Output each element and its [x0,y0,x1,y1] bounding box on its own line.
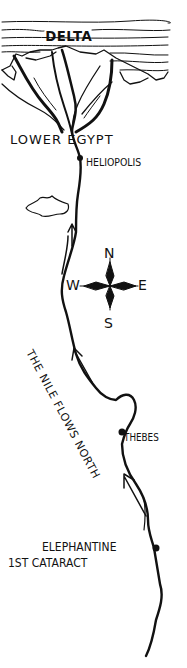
compass-west-label: W [66,278,80,292]
heliopolis-dot [77,155,83,161]
elephantine-dot [153,545,160,552]
compass-north-label: N [104,246,114,260]
lower-egypt-label: LOWER EGYPT [10,133,114,146]
heliopolis-label: HELIOPOLIS [86,157,141,168]
nile-map: DELTA LOWER EGYPT HELIOPOLIS THE NILE FL… [0,0,187,668]
elephantine-label: ELEPHANTINE [42,541,116,553]
nile-river [62,130,162,656]
flow-arrows [68,224,146,516]
compass-rose [80,258,138,310]
first-cataract-label: 1ST CATARACT [8,557,87,569]
city-dots [77,155,160,552]
compass-south-label: S [104,316,113,330]
compass-east-label: E [138,278,147,292]
cloud-shape [26,196,69,217]
delta-branches [2,50,112,134]
thebes-label: THEBES [124,432,159,443]
delta-label: DELTA [45,29,92,43]
